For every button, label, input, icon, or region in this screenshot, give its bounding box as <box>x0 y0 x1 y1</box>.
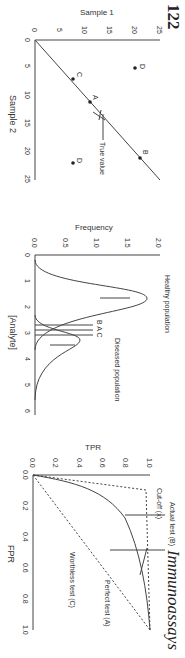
annotation: Actual test (B) <box>168 502 176 546</box>
y-tick: 1.5 <box>124 238 131 248</box>
x-tick: 0.2 <box>22 501 29 511</box>
annotation: Healthy population <box>163 275 171 333</box>
x-tick: 0 <box>24 253 31 257</box>
annotation: Perfect test (A) <box>103 580 111 627</box>
healthy-curve <box>35 260 147 350</box>
y-axis-label: Frequency <box>75 223 113 232</box>
y-tick: 0 <box>31 28 38 32</box>
annotation: Worthless test (C) <box>68 552 76 608</box>
x-tick: 0.8 <box>22 594 29 604</box>
x-tick: 25 <box>24 175 31 183</box>
y-tick: 20 <box>131 26 138 34</box>
x-tick: 0.0 <box>22 470 29 480</box>
y-tick: 0.0 <box>29 458 36 468</box>
roc-chart: Cut-off (x) Actual test (B) Worthless te… <box>0 440 185 658</box>
x-tick: 4 <box>24 357 31 361</box>
y-tick: 2.0 <box>155 238 162 248</box>
book-page: 122 Immunoassays D C A B D True value 0 <box>0 0 185 658</box>
x-tick: 20 <box>24 147 31 155</box>
perfect-arrow <box>140 548 147 575</box>
point-label: B <box>142 150 149 155</box>
x-tick: 0.6 <box>22 563 29 573</box>
y-tick: 1.0 <box>146 458 153 468</box>
point-label: A <box>92 95 99 100</box>
x-tick: 0 <box>24 38 31 42</box>
x-tick: 5 <box>24 383 31 387</box>
y-tick: 15 <box>106 26 113 34</box>
x-tick: 1 <box>24 279 31 283</box>
scatter-chart: D C A B D True value 0 5 10 15 20 25 0 5… <box>0 0 185 220</box>
y-tick: 1.0 <box>93 238 100 248</box>
data-point <box>88 100 92 104</box>
x-tick: 2 <box>24 305 31 309</box>
x-tick: 0.4 <box>22 532 29 542</box>
annotation: Diseased population <box>113 338 121 402</box>
y-tick: 0.4 <box>76 458 83 468</box>
x-tick: 1.0 <box>22 625 29 635</box>
y-tick: 0.5 <box>62 238 69 248</box>
worthless-test-curve <box>33 475 150 630</box>
point-label: D <box>139 64 146 69</box>
x-axis-label: FPR <box>6 545 16 564</box>
y-tick: 0.8 <box>122 458 129 468</box>
point-label: C <box>76 72 83 77</box>
x-tick: 15 <box>24 119 31 127</box>
y-axis-label: Sample 1 <box>80 8 114 17</box>
x-axis-label: [Analyte] <box>8 315 18 350</box>
annotation: Cut-off (x) <box>155 488 163 519</box>
data-point <box>71 77 75 81</box>
cutoff-labels: B A C <box>96 320 103 338</box>
annotation: True value <box>99 142 106 175</box>
data-point <box>138 156 142 160</box>
point-label: D <box>76 158 83 163</box>
x-axis-label: Sample 2 <box>8 95 18 133</box>
y-tick: 5 <box>56 28 63 32</box>
y-tick: 0.6 <box>99 458 106 468</box>
x-tick: 5 <box>24 64 31 68</box>
y-axis-label: TPR <box>85 443 101 452</box>
data-point <box>133 66 137 70</box>
x-tick: 3 <box>24 331 31 335</box>
diseased-curve <box>35 315 80 400</box>
x-tick: 6 <box>24 409 31 413</box>
y-tick: 25 <box>156 26 163 34</box>
data-point <box>71 161 75 165</box>
frequency-chart: Healthy population Diseased population B… <box>0 220 185 440</box>
y-tick: 0.0 <box>31 238 38 248</box>
y-tick: 0.2 <box>52 458 59 468</box>
x-tick: 10 <box>24 91 31 99</box>
y-tick: 10 <box>81 26 88 34</box>
